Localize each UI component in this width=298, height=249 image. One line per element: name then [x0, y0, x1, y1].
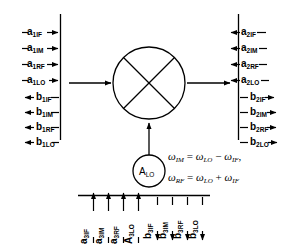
label-b1rf: b1RF: [36, 122, 54, 132]
equation-omega-rf: ωRF = ωLO + ωIF: [168, 171, 239, 183]
label-b2lo: b2LO: [250, 137, 269, 147]
label-b3if: b3IF: [143, 223, 153, 239]
label-b3im: b3IM: [158, 222, 168, 239]
label-a1rf: a1RF: [27, 59, 45, 69]
label-a2rf: a2RF: [241, 59, 259, 69]
label-a2lo: a2LO: [241, 75, 259, 85]
label-lo-source: ALO: [139, 166, 154, 177]
label-a1lo: a1LO: [27, 75, 45, 85]
label-b2rf: b2RF: [250, 122, 268, 132]
label-b3rf: b3RF: [173, 221, 183, 239]
label-a1im: a1IM: [27, 43, 43, 53]
label-a3lo: A3LO: [124, 224, 134, 244]
label-a2im: a2IM: [241, 43, 257, 53]
equation-omega-im: ωIM = ωLO − ωIF,: [168, 150, 241, 162]
label-b1lo: b1LO: [36, 137, 55, 147]
diagram-canvas: a1IF a1IM a1RF a1LO b1IF b1IM b1RF b1LO …: [0, 0, 298, 249]
label-b3lo: b3LO: [188, 220, 198, 239]
label-a3if: a3IF: [79, 229, 89, 244]
label-b2if: b2IF: [250, 92, 266, 102]
label-a2if: a2IF: [241, 27, 256, 37]
label-b1if: b1IF: [36, 92, 52, 102]
label-a1if: a1IF: [27, 27, 42, 37]
label-a3im: a3IM: [94, 228, 104, 244]
label-b2im: b2IM: [250, 107, 267, 117]
label-a3rf: a3RF: [109, 226, 119, 244]
label-b1im: b1IM: [36, 107, 53, 117]
